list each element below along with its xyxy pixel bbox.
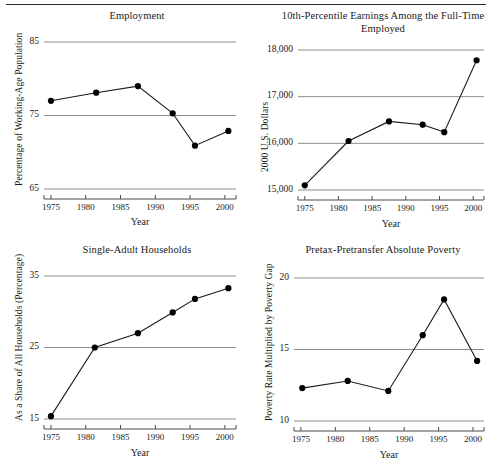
data-point-marker: [225, 285, 231, 291]
y-tick-label: 18,000: [246, 44, 293, 54]
x-axis-label: Year: [44, 447, 236, 458]
x-tick-label: 1990: [138, 202, 172, 212]
data-point-marker: [345, 378, 351, 384]
y-tick-label: 15,000: [246, 184, 293, 194]
data-point-marker: [48, 98, 54, 104]
data-point-marker: [192, 296, 198, 302]
x-tick-label: 1985: [104, 432, 138, 442]
x-axis-label: Year: [298, 218, 484, 229]
data-point-marker: [192, 143, 198, 149]
data-point-marker: [170, 110, 176, 116]
data-point-marker: [299, 385, 305, 391]
x-tick-label: 1985: [355, 203, 389, 213]
y-tick-label: 17,000: [246, 90, 293, 100]
x-tick-label: 1980: [69, 202, 103, 212]
data-point-marker: [441, 296, 447, 302]
x-tick-label: 1995: [423, 203, 457, 213]
data-point-marker: [135, 330, 141, 336]
x-tick-label: 1975: [34, 432, 68, 442]
x-tick-label: 1995: [422, 434, 456, 444]
x-tick-label: 1975: [34, 202, 68, 212]
x-tick-label: 1980: [321, 203, 355, 213]
data-point-marker: [473, 57, 479, 63]
x-tick-label: 2000: [208, 432, 242, 442]
x-tick-label: 1990: [387, 434, 421, 444]
x-tick-label: 2000: [456, 434, 490, 444]
chart-panel-single-adult-households: Single-Adult Households 1525351975198019…: [0, 238, 246, 469]
x-tick-label: 1980: [318, 434, 352, 444]
x-tick-label: 2000: [456, 203, 490, 213]
x-tick-label: 1990: [138, 432, 172, 442]
x-tick-label: 1975: [288, 203, 322, 213]
data-point-marker: [225, 128, 231, 134]
chart-panel-earnings: 10th-Percentile Earnings Among the Full-…: [246, 4, 492, 238]
x-tick-label: 1980: [69, 432, 103, 442]
x-tick-label: 1985: [104, 202, 138, 212]
chart-panel-employment: Employment 65758519751980198519901995200…: [0, 4, 246, 238]
data-point-marker: [302, 182, 308, 188]
data-point-marker: [420, 332, 426, 338]
x-axis-label: Year: [294, 449, 484, 460]
data-point-marker: [441, 129, 447, 135]
y-axis-label: Percentage of Working-Age Population: [14, 33, 24, 186]
x-axis-label: Year: [44, 216, 236, 227]
data-point-marker: [474, 358, 480, 364]
y-axis-label: As a Share of All Households (Percentage…: [14, 254, 24, 421]
data-point-marker: [92, 344, 98, 350]
data-point-marker: [170, 309, 176, 315]
y-axis-label: 2000 U.S. Dollars: [260, 102, 270, 172]
y-axis-label: Poverty Rate Multiplied by Poverty Gap: [264, 263, 274, 421]
x-tick-label: 1990: [389, 203, 423, 213]
data-point-marker: [385, 388, 391, 394]
x-tick-label: 1995: [173, 202, 207, 212]
data-series-line: [51, 288, 228, 416]
data-point-marker: [48, 413, 54, 419]
x-tick-label: 2000: [208, 202, 242, 212]
data-series-line: [302, 299, 477, 391]
x-tick-label: 1975: [284, 434, 318, 444]
chart-panel-poverty: Pretax-Pretransfer Absolute Poverty 1015…: [246, 238, 492, 469]
data-point-marker: [386, 118, 392, 124]
x-tick-label: 1995: [173, 432, 207, 442]
data-point-marker: [420, 122, 426, 128]
data-point-marker: [93, 90, 99, 96]
data-point-marker: [345, 138, 351, 144]
data-point-marker: [135, 83, 141, 89]
x-tick-label: 1985: [353, 434, 387, 444]
